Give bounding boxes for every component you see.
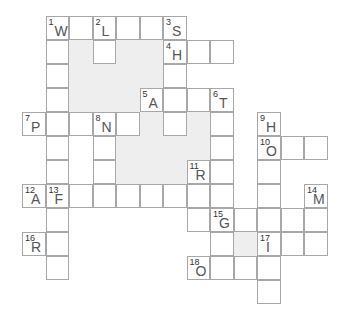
crossword-cell[interactable]	[46, 64, 70, 88]
crossword-grid: 1W2L3S4H5A6T7P8N9H10O11R12A13F14M15G16R1…	[0, 0, 346, 317]
cell-letter: R	[196, 168, 206, 183]
crossword-cell[interactable]	[163, 112, 187, 136]
clue-number: 8	[96, 113, 101, 123]
crossword-cell[interactable]	[257, 184, 281, 208]
crossword-cell[interactable]	[281, 232, 305, 256]
cell-letter: P	[31, 120, 40, 135]
crossword-cell[interactable]: 15G	[210, 208, 234, 232]
crossword-cell[interactable]	[46, 208, 70, 232]
crossword-cell[interactable]	[210, 184, 234, 208]
crossword-cell[interactable]: 8N	[93, 112, 117, 136]
clue-number: 1	[49, 17, 54, 27]
cell-letter: O	[196, 264, 207, 279]
crossword-cell[interactable]	[163, 88, 187, 112]
cell-letter: R	[31, 240, 41, 255]
crossword-cell[interactable]	[257, 208, 281, 232]
cell-letter: A	[31, 192, 40, 207]
crossword-cell[interactable]: 13F	[46, 184, 70, 208]
crossword-cell[interactable]	[46, 256, 70, 280]
crossword-cell[interactable]	[257, 280, 281, 304]
crossword-cell[interactable]: 12A	[22, 184, 46, 208]
shaded-region	[187, 112, 211, 160]
crossword-cell[interactable]	[93, 136, 117, 160]
crossword-cell[interactable]: 10O	[257, 136, 281, 160]
cell-letter: S	[172, 24, 181, 39]
crossword-cell[interactable]	[187, 208, 211, 232]
crossword-cell[interactable]	[281, 208, 305, 232]
cell-letter: W	[55, 24, 68, 39]
crossword-cell[interactable]: 5A	[140, 88, 164, 112]
cell-letter: N	[102, 120, 112, 135]
crossword-cell[interactable]	[116, 112, 140, 136]
crossword-cell[interactable]	[187, 40, 211, 64]
crossword-cell[interactable]: 14M	[304, 184, 328, 208]
crossword-cell[interactable]	[163, 64, 187, 88]
crossword-cell[interactable]	[116, 184, 140, 208]
clue-number: 5	[143, 89, 148, 99]
crossword-cell[interactable]	[234, 256, 258, 280]
crossword-cell[interactable]	[93, 40, 117, 64]
crossword-cell[interactable]: 7P	[22, 112, 46, 136]
crossword-cell[interactable]	[304, 232, 328, 256]
crossword-cell[interactable]	[210, 232, 234, 256]
cell-letter: I	[266, 240, 270, 255]
crossword-cell[interactable]	[210, 160, 234, 184]
cell-letter: M	[313, 192, 325, 207]
crossword-cell[interactable]	[93, 160, 117, 184]
crossword-cell[interactable]	[46, 40, 70, 64]
crossword-cell[interactable]	[116, 16, 140, 40]
crossword-cell[interactable]	[187, 184, 211, 208]
clue-number: 3	[166, 17, 171, 27]
crossword-cell[interactable]	[210, 112, 234, 136]
crossword-cell[interactable]	[210, 256, 234, 280]
crossword-cell[interactable]: 17I	[257, 232, 281, 256]
crossword-cell[interactable]	[304, 136, 328, 160]
crossword-cell[interactable]	[69, 112, 93, 136]
cell-letter: T	[219, 96, 228, 111]
crossword-cell[interactable]: 4H	[163, 40, 187, 64]
crossword-cell[interactable]	[257, 256, 281, 280]
crossword-cell[interactable]	[140, 184, 164, 208]
clue-number: 7	[25, 113, 30, 123]
crossword-cell[interactable]: 3S	[163, 16, 187, 40]
cell-letter: H	[266, 120, 276, 135]
clue-number: 6	[213, 89, 218, 99]
crossword-cell[interactable]	[187, 88, 211, 112]
crossword-cell[interactable]: 9H	[257, 112, 281, 136]
crossword-cell[interactable]	[46, 160, 70, 184]
cell-letter: O	[266, 144, 277, 159]
crossword-cell[interactable]	[304, 208, 328, 232]
cell-letter: A	[149, 96, 158, 111]
cell-letter: G	[219, 216, 230, 231]
crossword-cell[interactable]	[140, 16, 164, 40]
clue-number: 2	[96, 17, 101, 27]
crossword-cell[interactable]	[281, 136, 305, 160]
crossword-cell[interactable]: 1W	[46, 16, 70, 40]
crossword-cell[interactable]	[46, 136, 70, 160]
crossword-cell[interactable]	[69, 16, 93, 40]
crossword-cell[interactable]	[46, 88, 70, 112]
crossword-cell[interactable]	[163, 184, 187, 208]
cell-letter: L	[102, 24, 110, 39]
clue-number: 4	[166, 41, 171, 51]
crossword-cell[interactable]	[257, 160, 281, 184]
crossword-cell[interactable]: 6T	[210, 88, 234, 112]
crossword-cell[interactable]	[210, 40, 234, 64]
crossword-cell[interactable]: 18O	[187, 256, 211, 280]
crossword-cell[interactable]	[46, 232, 70, 256]
crossword-cell[interactable]	[210, 136, 234, 160]
crossword-cell[interactable]	[46, 112, 70, 136]
clue-number: 9	[260, 113, 265, 123]
crossword-cell[interactable]	[234, 208, 258, 232]
crossword-cell[interactable]: 2L	[93, 16, 117, 40]
crossword-cell[interactable]	[93, 184, 117, 208]
cell-letter: H	[172, 48, 182, 63]
crossword-cell[interactable]: 16R	[22, 232, 46, 256]
crossword-cell[interactable]	[69, 184, 93, 208]
cell-letter: F	[55, 192, 64, 207]
crossword-cell[interactable]: 11R	[187, 160, 211, 184]
